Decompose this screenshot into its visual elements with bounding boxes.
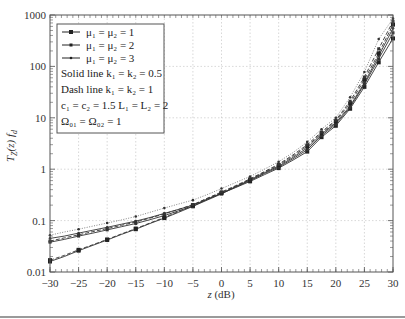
line-chart: −30−25−20−15−10−5051015202530 0.010.1110… — [0, 0, 405, 319]
x-tick-label: 20 — [330, 277, 342, 289]
x-tick-label: 25 — [359, 277, 371, 289]
legend-label-mu2: μ₁ = μ₂ = 2 — [86, 39, 134, 51]
x-tick-label: −10 — [156, 277, 174, 289]
legend-label-mu1: μ₁ = μ₂ = 1 — [86, 26, 134, 38]
x-tick-label: 5 — [247, 277, 253, 289]
square-marker-icon — [69, 30, 73, 34]
y-tick-label: 1 — [41, 163, 47, 175]
legend-note-params: c₁ = c₂ = 1.5 L₁ = L₂ = 2 — [61, 99, 168, 111]
x-axis-ticks: −30−25−20−15−10−5051015202530 — [41, 267, 399, 289]
x-tick-label: −5 — [187, 277, 199, 289]
legend-note-solid: Solid line k₁ = k₂ = 0.5 — [61, 67, 163, 79]
dot-marker-icon — [70, 57, 73, 60]
legend-note-dash: Dash line k₁ = k₂ = 1 — [61, 83, 153, 95]
bottom-divider — [0, 316, 405, 318]
y-tick-label: 0.1 — [32, 215, 46, 227]
y-tick-label: 1000 — [24, 9, 47, 21]
x-axis-title: z (dB) — [206, 288, 235, 301]
x-tick-label: 15 — [302, 277, 314, 289]
legend-note-omega: Ω₀₁ = Ω₀₂ = 1 — [61, 115, 122, 127]
x-tick-label: −30 — [41, 277, 59, 289]
y-tick-label: 0.01 — [27, 266, 46, 278]
x-tick-label: −25 — [70, 277, 88, 289]
y-tick-label: 10 — [35, 112, 47, 124]
x-tick-label: −20 — [99, 277, 117, 289]
x-tick-label: −15 — [127, 277, 145, 289]
y-axis-title: TZ(z) fd — [4, 129, 19, 162]
x-tick-label: 30 — [388, 277, 400, 289]
legend: μ₁ = μ₂ = 1 μ₁ = μ₂ = 2 μ₁ = μ₂ = 3 Soli… — [57, 24, 168, 133]
diamond-marker-icon — [70, 44, 73, 47]
legend-label-mu3: μ₁ = μ₂ = 3 — [86, 52, 135, 64]
x-tick-label: 10 — [273, 277, 285, 289]
y-tick-label: 100 — [30, 60, 47, 72]
